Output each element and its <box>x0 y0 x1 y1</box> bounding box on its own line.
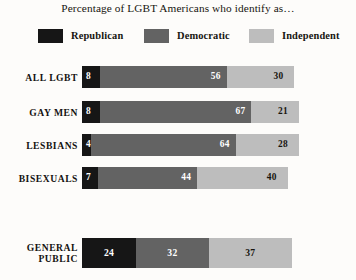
chart-title: Percentage of LGBT Americans who identif… <box>0 2 356 14</box>
chart-container: Percentage of LGBT Americans who identif… <box>0 0 356 280</box>
bar-value-independent: 30 <box>273 72 294 81</box>
stacked-bar-general-public: 24 32 37 <box>82 238 292 268</box>
bar-value-democratic: 44 <box>181 173 197 182</box>
bar-value-independent: 21 <box>278 107 299 116</box>
table-row: GENERAL PUBLIC 24 32 37 <box>0 238 356 268</box>
legend-label-democratic: Democratic <box>177 30 230 41</box>
table-row: LESBIANS 4 64 28 <box>0 134 356 156</box>
bar-segment-independent: 37 <box>209 238 293 268</box>
legend-item-independent: Independent <box>249 26 340 45</box>
bar-value-democratic: 64 <box>220 140 236 149</box>
row-label-gay-men: GAY MEN <box>0 107 78 118</box>
table-row: GAY MEN 8 67 21 <box>0 101 356 123</box>
bar-value-independent: 37 <box>245 248 255 258</box>
bar-value-republican: 8 <box>82 107 91 116</box>
row-label-bisexuals: BISEXUALS <box>0 173 78 184</box>
legend-swatch-republican <box>38 29 63 43</box>
bar-segment-republican: 7 <box>82 167 98 189</box>
row-label-all-lgbt: ALL LGBT <box>0 72 78 83</box>
legend-swatch-independent <box>249 29 274 43</box>
bar-segment-independent: 21 <box>251 101 298 123</box>
stacked-bar-gay-men: 8 67 21 <box>82 101 299 123</box>
bar-segment-independent: 28 <box>236 134 299 156</box>
bar-segment-democratic: 67 <box>100 101 251 123</box>
bar-segment-republican: 8 <box>82 66 100 88</box>
legend-item-democratic: Democratic <box>144 26 230 45</box>
legend-item-republican: Republican <box>38 26 123 45</box>
bar-segment-independent: 30 <box>227 66 295 88</box>
bar-value-republican: 8 <box>82 72 91 81</box>
bar-value-republican: 4 <box>82 140 91 149</box>
table-row: BISEXUALS 7 44 40 <box>0 167 356 189</box>
bar-value-republican: 24 <box>104 248 114 258</box>
bar-value-republican: 7 <box>82 173 91 182</box>
stacked-bar-lesbians: 4 64 28 <box>82 134 299 156</box>
bar-value-democratic: 67 <box>236 107 252 116</box>
table-row: ALL LGBT 8 56 30 <box>0 66 356 88</box>
chart-legend: Republican Democratic Independent <box>36 26 344 45</box>
bar-segment-republican: 8 <box>82 101 100 123</box>
stacked-bar-bisexuals: 7 44 40 <box>82 167 288 189</box>
bar-value-democratic: 32 <box>167 248 177 258</box>
legend-swatch-democratic <box>144 29 169 43</box>
stacked-bar-all-lgbt: 8 56 30 <box>82 66 294 88</box>
bar-segment-democratic: 64 <box>91 134 236 156</box>
legend-label-republican: Republican <box>71 30 123 41</box>
bar-segment-democratic: 32 <box>136 238 208 268</box>
bar-value-independent: 40 <box>267 173 288 182</box>
bar-segment-democratic: 44 <box>98 167 197 189</box>
row-label-lesbians: LESBIANS <box>0 140 78 151</box>
bar-segment-republican: 24 <box>82 238 136 268</box>
bar-segment-republican: 4 <box>82 134 91 156</box>
bar-segment-independent: 40 <box>197 167 287 189</box>
bar-value-independent: 28 <box>278 140 299 149</box>
bar-value-democratic: 56 <box>211 72 227 81</box>
row-label-general-public: GENERAL PUBLIC <box>0 242 78 265</box>
legend-label-independent: Independent <box>282 30 340 41</box>
bar-segment-democratic: 56 <box>100 66 227 88</box>
